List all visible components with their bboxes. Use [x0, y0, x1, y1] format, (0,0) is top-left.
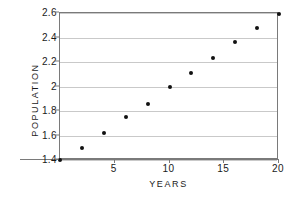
- y-tick-mark-1.6: [55, 134, 59, 135]
- gridline-y-1.6: [60, 136, 277, 137]
- data-point: [255, 26, 259, 30]
- x-tick-mark-5: [114, 159, 115, 163]
- data-point: [80, 146, 84, 150]
- data-point: [189, 71, 193, 75]
- x-axis-title: YEARS: [59, 179, 278, 189]
- x-tick-label-15: 15: [217, 163, 229, 174]
- y-tick-mark-2.6: [55, 12, 59, 13]
- y-tick-mark-2: [55, 85, 59, 86]
- gridline-y-2.6: [60, 13, 277, 14]
- data-point: [233, 40, 237, 44]
- gridline-y-1.8: [60, 111, 277, 112]
- plot-area: [59, 12, 278, 159]
- population-vs-years-chart: POPULATION 1.41.61.822.22.42.6 5101520 Y…: [0, 0, 290, 199]
- data-point: [277, 12, 281, 16]
- x-tick-label-10: 10: [163, 163, 175, 174]
- x-tick-mark-20: [278, 159, 279, 163]
- gridline-y-2.2: [60, 62, 277, 63]
- x-tick-label-5: 5: [111, 163, 117, 174]
- data-point: [124, 115, 128, 119]
- y-tick-mark-2.2: [55, 61, 59, 62]
- y-tick-mark-1.8: [55, 110, 59, 111]
- x-tick-mark-15: [223, 159, 224, 163]
- y-tick-mark-2.4: [55, 36, 59, 37]
- y-tick-mark-1.4: [55, 159, 59, 160]
- y-axis-title: POPULATION: [30, 40, 40, 160]
- data-point: [146, 102, 150, 106]
- x-tick-mark-10: [169, 159, 170, 163]
- data-point: [168, 85, 172, 89]
- data-point: [211, 56, 215, 60]
- gridline-y-2.4: [60, 38, 277, 39]
- data-point: [102, 131, 106, 135]
- x-tick-label-20: 20: [272, 163, 284, 174]
